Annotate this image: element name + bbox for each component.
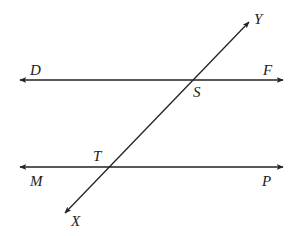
label-f: F — [262, 62, 273, 78]
label-s: S — [193, 84, 201, 100]
label-t: T — [93, 148, 103, 164]
label-y: Y — [254, 11, 264, 27]
label-x: X — [70, 213, 81, 229]
label-d: D — [29, 62, 41, 78]
transversal-xy — [65, 22, 249, 213]
label-p: P — [261, 173, 271, 189]
parallel-lines-diagram: Y D F S T M P X — [0, 0, 293, 236]
label-m: M — [29, 173, 44, 189]
diagram-canvas: Y D F S T M P X — [0, 0, 293, 236]
